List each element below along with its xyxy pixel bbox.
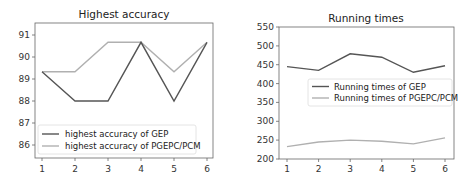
y-tick-label: 250 <box>257 135 274 145</box>
x-tick-label: 6 <box>204 164 210 174</box>
chart-title: Running times <box>328 12 404 24</box>
y-tick-label: 350 <box>257 97 274 107</box>
y-tick-label: 500 <box>257 41 274 51</box>
y-tick-label: 300 <box>257 116 274 126</box>
x-tick-label: 5 <box>411 164 417 174</box>
chart-title: Highest accuracy <box>79 8 170 20</box>
x-tick-label: 2 <box>72 164 78 174</box>
y-axis: 200 250 300 350 400 450 500 550 <box>257 22 279 164</box>
x-tick-label: 4 <box>379 164 385 174</box>
series-line-pgepc <box>42 42 207 71</box>
y-tick-label: 87 <box>19 118 30 128</box>
figure: Highest accuracy 86 87 88 89 90 91 <box>0 0 471 184</box>
x-tick-label: 1 <box>39 164 45 174</box>
x-tick-label: 3 <box>105 164 111 174</box>
legend-label-gep: Running times of GEP <box>334 82 426 92</box>
x-tick-label: 1 <box>284 164 290 174</box>
y-tick-label: 550 <box>257 22 274 32</box>
x-tick-label: 6 <box>442 164 448 174</box>
legend: highest accuracy of GEP highest accuracy… <box>38 125 201 154</box>
legend-label-pgepc: highest accuracy of PGEPC/PCM <box>65 141 201 151</box>
x-tick-label: 5 <box>171 164 177 174</box>
y-tick-label: 91 <box>19 30 30 40</box>
chart-highest-accuracy: Highest accuracy 86 87 88 89 90 91 <box>19 8 213 174</box>
y-axis: 86 87 88 89 90 91 <box>19 30 35 150</box>
y-tick-label: 90 <box>19 52 31 62</box>
legend: Running times of GEP Running times of PG… <box>308 79 458 106</box>
y-tick-label: 200 <box>257 154 274 164</box>
x-tick-label: 4 <box>138 164 144 174</box>
chart-running-times: Running times 200 250 300 350 400 450 50… <box>257 12 458 174</box>
series-line-pgepc <box>287 138 445 147</box>
x-tick-label: 2 <box>316 164 322 174</box>
y-tick-label: 88 <box>19 96 31 106</box>
series-line-gep <box>287 54 445 73</box>
y-tick-label: 450 <box>257 60 274 70</box>
legend-label-pgepc: Running times of PGEPC/PCM <box>334 93 458 103</box>
y-tick-label: 400 <box>257 79 274 89</box>
legend-label-gep: highest accuracy of GEP <box>65 129 168 139</box>
x-axis: 1 2 3 4 5 6 <box>39 158 210 174</box>
y-tick-label: 89 <box>19 74 31 84</box>
x-axis: 1 2 3 4 5 6 <box>284 159 448 174</box>
y-tick-label: 86 <box>19 140 31 150</box>
x-tick-label: 3 <box>347 164 353 174</box>
